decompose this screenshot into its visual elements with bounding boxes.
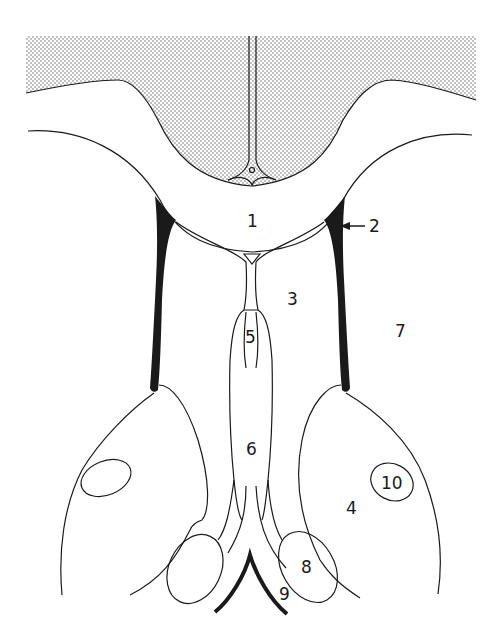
label-8: 8 [301,557,312,577]
label-4: 4 [346,498,357,518]
stippled-region [26,36,476,186]
structure-2-left [150,196,176,392]
left-oval [76,452,137,503]
label-2: 2 [369,216,380,236]
septum-outline [176,222,324,310]
right-channel [256,480,286,568]
anatomical-diagram: 1 2 3 5 7 6 10 4 8 9 [0,0,497,640]
chevron-9 [215,555,287,614]
label-1: 1 [247,211,258,231]
label-10: 10 [381,473,403,493]
left-channel [218,480,246,553]
label-9: 9 [279,584,290,604]
left-lobe-outline [61,393,154,595]
left-lower-oval [156,525,234,612]
right-lobe-outline [346,393,440,594]
label-3: 3 [287,289,298,309]
label-6: 6 [246,439,257,459]
label-7: 7 [395,321,406,341]
label-5: 5 [245,327,256,347]
